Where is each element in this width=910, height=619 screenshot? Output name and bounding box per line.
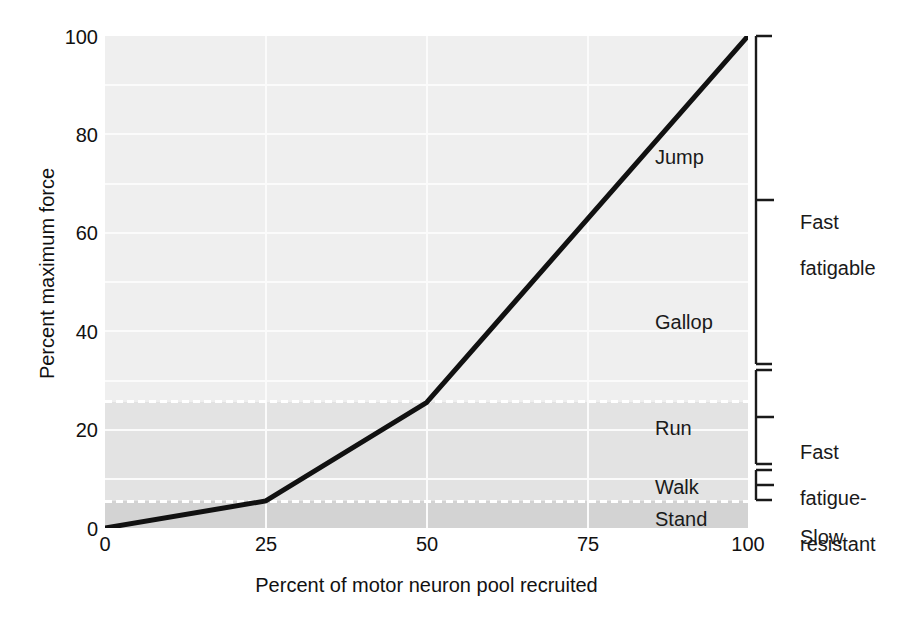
- bracket-slow: [756, 470, 774, 500]
- bracket-fast-fatigable: [756, 36, 774, 364]
- plot-label-stand: Stand: [655, 509, 707, 528]
- bracket-label-slow: Slow: [800, 503, 843, 572]
- plot-area: Jump Gallop Run Walk Stand: [105, 36, 748, 528]
- x-tick-0: 0: [65, 534, 145, 554]
- plot-label-run: Run: [655, 418, 692, 438]
- y-tick-100: 100: [28, 27, 98, 47]
- x-tick-25: 25: [226, 534, 306, 554]
- bracket-label-fast-fatigable-line2: fatigable: [800, 257, 876, 280]
- x-tick-75: 75: [548, 534, 628, 554]
- x-tick-50: 50: [387, 534, 467, 554]
- plot-label-gallop: Gallop: [655, 312, 713, 332]
- motor-unit-recruitment-figure: Jump Gallop Run Walk Stand 100 80 60 40 …: [0, 0, 910, 619]
- bracket-label-fast-fatigable-line1: Fast: [800, 211, 876, 234]
- y-axis-ticks: 100 80 60 40 20 0: [20, 0, 98, 619]
- bracket-label-fast-fatigue-resistant-line1: Fast: [800, 441, 876, 464]
- plot-label-jump: Jump: [655, 147, 704, 167]
- bracket-label-slow-line1: Slow: [800, 526, 843, 549]
- y-axis-title: Percent maximum force: [36, 124, 59, 424]
- recruitment-curve: [105, 36, 748, 528]
- bracket-label-fast-fatigable: Fast fatigable: [800, 188, 876, 303]
- x-axis-title: Percent of motor neuron pool recruited: [105, 574, 748, 597]
- bracket-fast-fatigue-resistant: [756, 370, 774, 464]
- plot-label-walk: Walk: [655, 477, 699, 497]
